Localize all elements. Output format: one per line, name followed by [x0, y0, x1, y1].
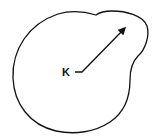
arrow-line — [75, 29, 124, 72]
k-label: K — [62, 66, 70, 78]
diagram-canvas: K — [0, 0, 155, 137]
